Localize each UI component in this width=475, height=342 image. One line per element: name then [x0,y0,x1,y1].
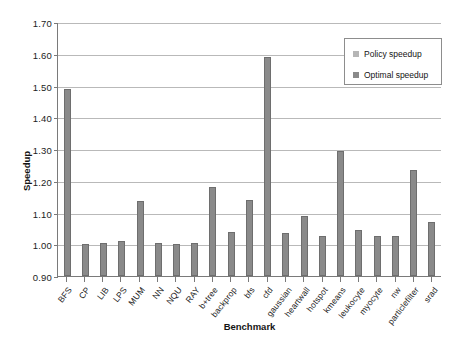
bar [410,170,417,276]
x-tick-label: LIB [95,285,111,301]
bar-slot [58,23,76,276]
x-tick-mark [303,277,304,282]
x-tick-mark [340,277,341,282]
y-tick-label: 1.20 [33,176,52,187]
x-tick-mark [120,277,121,282]
bar [301,216,308,276]
x-tick-label: NQU [164,285,184,306]
bar [319,236,326,276]
x-tick-label: nw [388,285,403,300]
x-tick-label: cfd [260,285,275,300]
bar [337,151,344,276]
legend-label-policy-speedup: Policy speedup [364,49,422,59]
bar [191,243,198,276]
bar-slot [222,23,240,276]
x-tick-mark [230,277,231,282]
bar [428,222,435,276]
x-tick-label: CP [77,285,92,301]
y-tick-label: 1.40 [33,113,52,124]
x-tick-mark [285,277,286,282]
x-tick-mark [358,277,359,282]
y-tick-label: 1.10 [33,208,52,219]
legend-swatch-optimal-speedup [353,72,359,78]
bar-slot [167,23,185,276]
x-tick-label: BFS [56,285,74,304]
x-tick-mark [322,277,323,282]
bar [100,243,107,276]
bar [228,232,235,276]
x-tick-mark [248,277,249,282]
bar-slot [186,23,204,276]
bar-slot [295,23,313,276]
bar-slot [113,23,131,276]
x-tick-label: NN [150,285,166,301]
x-tick-mark [376,277,377,282]
x-tick-mark [413,277,414,282]
x-tick-mark [395,277,396,282]
x-tick-label: srad [421,285,439,305]
bar [209,187,216,276]
x-tick-mark [157,277,158,282]
bar-chart: Speedup 1.701.601.501.401.301.201.101.00… [0,0,475,342]
bar [137,201,144,276]
x-tick-mark [194,277,195,282]
x-tick-mark [66,277,67,282]
y-tick-label: 1.70 [33,18,52,29]
x-tick-mark [267,277,268,282]
bar [173,244,180,276]
bar [246,200,253,276]
bar-slot [277,23,295,276]
y-tick-label: 1.50 [33,81,52,92]
bar [355,230,362,276]
bar [64,89,71,276]
x-tick-label: MUM [127,285,148,307]
bar-slot [204,23,222,276]
bar [155,243,162,276]
bar-slot [259,23,277,276]
bar [264,57,271,276]
bar-slot [131,23,149,276]
bar [118,241,125,276]
bar [282,233,289,276]
y-tick-label: 1.00 [33,240,52,251]
chart-legend: Policy speedup Optimal speedup [344,38,442,85]
x-tick-label: bfs [242,285,257,300]
legend-entry-policy-speedup: Policy speedup [353,45,441,62]
x-axis-title: Benchmark [0,321,475,332]
bar-slot [76,23,94,276]
bar [392,236,399,276]
x-tick-mark [175,277,176,282]
bar-slot [149,23,167,276]
bar [374,236,381,276]
x-tick-mark [102,277,103,282]
legend-label-optimal-speedup: Optimal speedup [364,70,428,80]
x-tick-mark [84,277,85,282]
x-tick-mark [212,277,213,282]
y-axis-title: Speedup [21,151,32,191]
legend-swatch-policy-speedup [353,51,359,57]
y-tick-label: 0.90 [33,272,52,283]
legend-entry-optimal-speedup: Optimal speedup [353,66,441,83]
x-tick-mark [139,277,140,282]
bar-slot [313,23,331,276]
y-tick-label: 1.60 [33,49,52,60]
bar-slot [240,23,258,276]
x-tick-mark [431,277,432,282]
bar-slot [94,23,112,276]
y-tick-label: 1.30 [33,145,52,156]
bar [82,244,89,276]
